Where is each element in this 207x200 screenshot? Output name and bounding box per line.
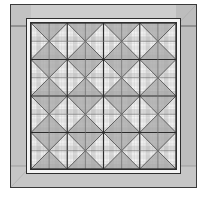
quilt-field: [31, 23, 176, 169]
quilt-canvas: [0, 0, 207, 200]
quilt-illustration: Framed Quilt Illustration: [0, 0, 207, 200]
